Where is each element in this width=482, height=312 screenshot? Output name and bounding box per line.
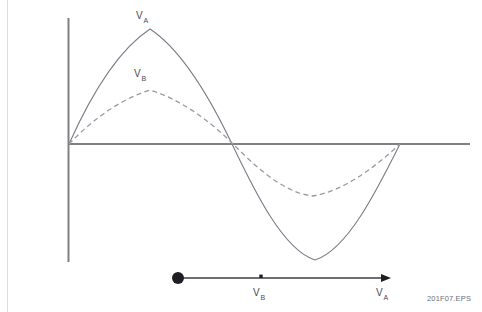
label-va-magnitude-text: V [376,287,383,298]
label-vb-magnitude: VB [253,288,265,300]
waveform-plot [0,0,482,312]
label-va-curve-subscript: A [143,17,148,24]
label-vb-magnitude-text: V [253,287,260,298]
label-va-curve: VA [136,11,148,23]
label-vb-curve: VB [134,69,146,81]
figure-canvas: VA VB VB VA 201F07.EPS [0,0,482,312]
label-va-magnitude-subscript: A [383,294,388,301]
magnitude-axis [172,272,391,284]
magnitude-axis-arrowhead [381,274,391,282]
figure-id-tag: 201F07.EPS [427,295,471,303]
label-va-magnitude: VA [376,288,388,300]
label-vb-curve-subscript: B [141,75,146,82]
label-va-curve-text: V [136,10,143,21]
magnitude-axis-tick-vb [259,275,262,278]
label-vb-magnitude-subscript: B [260,294,265,301]
label-vb-curve-text: V [134,68,141,79]
magnitude-axis-origin-dot [172,272,184,284]
